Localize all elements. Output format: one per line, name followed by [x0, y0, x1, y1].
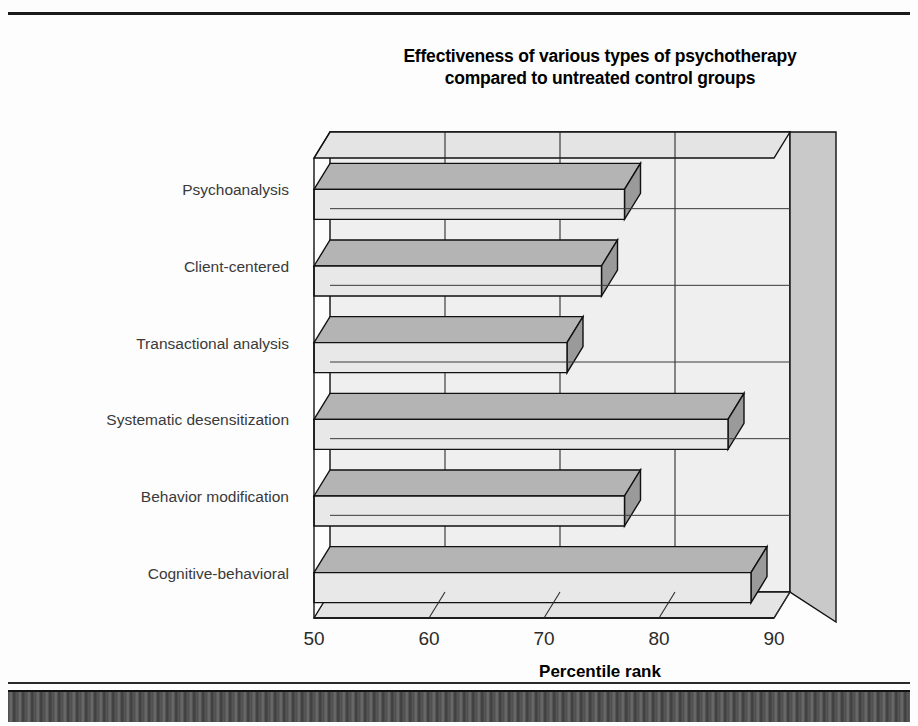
bottom-divider-rule — [8, 682, 910, 684]
category-label-2: Client-centered — [184, 258, 289, 276]
bar-front-face — [314, 189, 625, 219]
bar-top-face — [314, 547, 767, 573]
bar-top-face — [314, 393, 744, 419]
bar-front-face — [314, 573, 751, 603]
bar-top-face — [314, 163, 641, 189]
bar-top-face — [314, 240, 618, 266]
chart-title-line-1: Effectiveness of various types of psycho… — [300, 46, 900, 68]
category-label-4: Systematic desensitization — [106, 411, 289, 429]
ceiling-face — [314, 132, 790, 158]
chart-title-line-2: compared to untreated control groups — [300, 68, 900, 90]
bar-front-face — [314, 343, 567, 373]
right-side-wall — [790, 132, 836, 622]
category-label-6: Cognitive-behavioral — [148, 565, 289, 583]
top-divider-rule — [8, 12, 910, 15]
chart-title: Effectiveness of various types of psycho… — [300, 46, 900, 90]
bar-top-face — [314, 317, 583, 343]
category-label-1: Psychoanalysis — [182, 181, 289, 199]
chart-3d-canvas — [296, 100, 896, 645]
bar-front-face — [314, 266, 602, 296]
category-label-3: Transactional analysis — [136, 335, 289, 353]
bottom-decorative-bar — [8, 690, 910, 722]
bar-front-face — [314, 419, 728, 449]
plot-area — [296, 100, 896, 645]
category-label-group: PsychoanalysisClient-centeredTransaction… — [20, 100, 295, 645]
x-axis-title: Percentile rank — [300, 662, 900, 682]
bar-front-face — [314, 496, 625, 526]
bar-top-face — [314, 470, 641, 496]
category-label-5: Behavior modification — [141, 488, 289, 506]
figure-page: Effectiveness of various types of psycho… — [0, 0, 918, 726]
